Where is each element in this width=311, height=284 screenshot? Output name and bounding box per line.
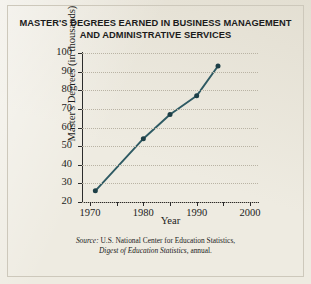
source-note: Source: U.S. National Center for Educati…: [20, 236, 291, 255]
data-point: [194, 93, 199, 98]
y-axis-tick: [78, 165, 82, 166]
x-axis-tick: [117, 202, 118, 206]
gridline-y: [82, 146, 258, 147]
y-axis-tick: [78, 128, 82, 129]
data-point: [141, 136, 146, 141]
x-axis-tick: [170, 202, 171, 206]
y-axis-tick-label: 60: [50, 121, 72, 132]
y-axis-tick-label: 70: [50, 102, 72, 113]
x-axis-tick: [197, 202, 198, 206]
chart-title: MASTER'S DEGREES EARNED IN BUSINESS MANA…: [14, 17, 297, 42]
y-axis-tick-label: 50: [50, 139, 72, 150]
source-line-2: Digest of Education Statistics,: [99, 246, 189, 255]
y-axis-tick: [78, 146, 82, 147]
source-line-1: U.S. National Center for Education Stati…: [99, 236, 236, 245]
gridline-y: [82, 128, 258, 129]
x-axis-tick: [223, 202, 224, 206]
y-axis-tick-label: 30: [50, 176, 72, 187]
gridline-y: [82, 183, 258, 184]
x-axis-tick: [143, 202, 144, 206]
data-point: [216, 64, 221, 69]
chart-title-line-1: MASTER'S DEGREES EARNED IN BUSINESS MANA…: [14, 17, 297, 29]
y-axis-tick-label: 20: [50, 195, 72, 206]
y-axis-tick-label: 100: [50, 46, 72, 57]
x-axis-label: Year: [82, 215, 259, 226]
x-axis-tick: [90, 202, 91, 206]
y-axis-tick: [78, 109, 82, 110]
data-point: [93, 188, 98, 193]
y-axis-tick-label: 80: [50, 83, 72, 94]
y-axis-tick-label: 40: [50, 158, 72, 169]
chart-title-line-2: AND ADMINISTRATIVE SERVICES: [14, 29, 297, 41]
gridline-y: [82, 72, 258, 73]
source-prefix: Source:: [76, 236, 99, 245]
y-axis-tick: [78, 53, 82, 54]
y-axis-tick-label: 90: [50, 65, 72, 76]
gridline-y: [82, 90, 258, 91]
figure-container: MASTER'S DEGREES EARNED IN BUSINESS MANA…: [0, 0, 311, 284]
y-axis-tick: [78, 183, 82, 184]
y-axis-tick: [78, 72, 82, 73]
gridline-y: [82, 53, 258, 54]
plot-area: 20304050607080901001970198019902000: [82, 53, 258, 202]
x-axis-tick: [250, 202, 251, 206]
source-line-2-suffix: annual.: [189, 246, 212, 255]
gridline-y: [82, 109, 258, 110]
gridline-y: [82, 165, 258, 166]
y-axis-tick: [78, 202, 82, 203]
data-point: [168, 112, 173, 117]
y-axis-tick: [78, 90, 82, 91]
